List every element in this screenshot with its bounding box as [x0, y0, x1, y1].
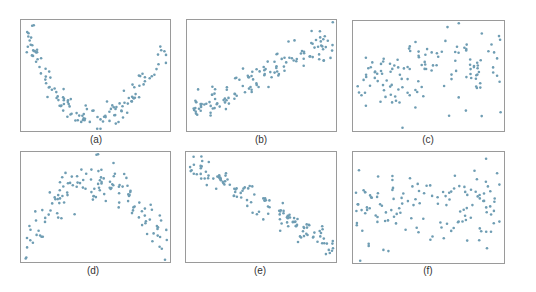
data-point [131, 83, 134, 86]
data-point [138, 84, 141, 87]
data-point [192, 156, 195, 159]
data-point [258, 70, 261, 73]
data-point [216, 102, 219, 105]
data-point [41, 209, 44, 212]
data-point [369, 84, 372, 87]
data-point [374, 77, 377, 80]
data-point [144, 207, 147, 210]
data-point [492, 71, 495, 74]
data-point [414, 198, 417, 201]
data-point [439, 221, 442, 224]
data-point [115, 122, 118, 125]
data-point [366, 209, 369, 212]
data-point [328, 249, 331, 252]
data-point [479, 227, 482, 230]
data-point [194, 100, 197, 103]
data-point [28, 225, 31, 228]
data-point [90, 178, 93, 181]
data-point [316, 241, 319, 244]
data-point [256, 213, 259, 216]
scatter-plot-e [186, 152, 336, 262]
data-point [75, 185, 78, 188]
data-point [416, 91, 419, 94]
data-point [319, 30, 322, 33]
data-point [477, 64, 480, 67]
data-point [28, 39, 31, 42]
data-point [377, 175, 380, 178]
data-point [92, 195, 95, 198]
data-point [371, 197, 374, 200]
data-point [195, 112, 198, 115]
data-point [355, 210, 358, 213]
data-point [279, 218, 282, 221]
data-point [490, 43, 493, 46]
data-point [356, 85, 359, 88]
data-point [275, 67, 278, 70]
data-point [208, 161, 211, 164]
data-point [416, 183, 419, 186]
scatter-plot-d [21, 152, 170, 262]
data-point [127, 200, 130, 203]
data-point [97, 183, 100, 186]
data-point [132, 209, 135, 212]
data-point [267, 205, 270, 208]
data-point [113, 114, 116, 117]
data-point [213, 92, 216, 95]
data-point [44, 217, 47, 220]
scatter-plot-a [21, 20, 170, 131]
data-point [485, 211, 488, 214]
data-point [208, 101, 211, 104]
data-point [332, 240, 335, 243]
data-point [92, 109, 95, 112]
data-point [381, 72, 384, 75]
data-point [251, 185, 254, 188]
data-point [129, 191, 132, 194]
data-point [492, 66, 495, 69]
data-point [199, 165, 202, 168]
data-point [455, 70, 458, 73]
data-point [63, 103, 66, 106]
data-point [72, 184, 75, 187]
data-point [62, 88, 65, 91]
data-point [450, 78, 453, 81]
data-point [365, 105, 368, 108]
data-point [92, 198, 95, 201]
data-point [300, 52, 303, 55]
data-point [146, 233, 149, 236]
data-point [234, 77, 237, 80]
data-point [255, 82, 258, 85]
data-point [420, 64, 423, 67]
data-point [398, 101, 401, 104]
data-point [489, 205, 492, 208]
data-point [432, 64, 435, 67]
caption-a: (a) [66, 134, 126, 145]
data-point [131, 212, 134, 215]
data-point [469, 73, 472, 76]
data-point [321, 228, 324, 231]
data-point [97, 170, 100, 173]
data-point [233, 194, 236, 197]
data-point [444, 195, 447, 198]
data-point [242, 85, 245, 88]
data-point [410, 217, 413, 220]
caption-c: (c) [398, 134, 458, 145]
data-point [209, 105, 212, 108]
data-point [104, 115, 107, 118]
data-point [228, 102, 231, 105]
data-point [89, 121, 92, 124]
data-point [414, 106, 417, 109]
data-point [138, 201, 141, 204]
data-point [153, 74, 156, 77]
data-point [34, 210, 37, 213]
data-point [476, 87, 479, 90]
data-point [278, 213, 281, 216]
data-point [266, 60, 269, 63]
data-point [493, 51, 496, 54]
data-point [452, 227, 455, 230]
data-point [121, 105, 124, 108]
data-point [454, 51, 457, 54]
data-point [466, 239, 469, 242]
data-point [406, 66, 409, 69]
caption-e: (e) [230, 265, 290, 276]
data-point [364, 212, 367, 215]
